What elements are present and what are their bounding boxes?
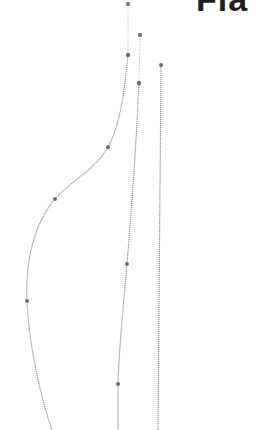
left-curve-anchor-point[interactable] — [25, 299, 29, 303]
left-curve-anchor-point[interactable] — [126, 53, 130, 57]
left-curve-path[interactable] — [27, 55, 128, 430]
right-line-path[interactable] — [158, 65, 161, 430]
right-line-anchor-point[interactable] — [159, 63, 163, 67]
middle-curve-anchor-point[interactable] — [125, 262, 129, 266]
left-curve-anchor-point[interactable] — [53, 197, 57, 201]
curves-layer — [0, 0, 280, 430]
middle-curve-anchor-point[interactable] — [137, 81, 141, 85]
drawing-canvas[interactable]: Fla — [0, 0, 280, 430]
left-curve-handle-point[interactable] — [126, 2, 130, 6]
left-curve-anchor-point[interactable] — [106, 145, 110, 149]
middle-curve-handle-point[interactable] — [138, 33, 142, 37]
middle-curve-path[interactable] — [118, 83, 139, 430]
middle-curve-anchor-point[interactable] — [116, 382, 120, 386]
middle-curve-handle-line — [139, 35, 140, 83]
